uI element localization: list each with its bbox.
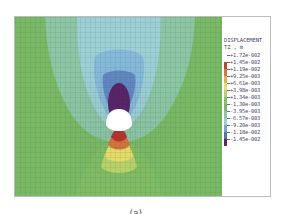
legend-value: -1.30e-003	[230, 101, 260, 107]
legend-value: -9.20e-003	[230, 122, 260, 128]
legend-swatch	[224, 139, 227, 146]
legend-value: +9.25e-003	[230, 73, 260, 79]
legend-value: +1.34e-003	[230, 94, 260, 100]
legend: DISPLACEMENT TZ , m +1.72e-002 +1.45e-00…	[222, 17, 270, 196]
contour-figure: DISPLACEMENT TZ , m +1.72e-002 +1.45e-00…	[14, 16, 271, 197]
legend-swatch	[224, 111, 227, 118]
legend-swatch	[224, 97, 227, 104]
legend-value: +1.45e-002	[230, 59, 260, 65]
legend-value: -1.18e-002	[230, 129, 260, 135]
legend-value: +6.61e-003	[230, 80, 260, 86]
legend-value: -1.45e-002	[230, 136, 260, 142]
legend-title: DISPLACEMENT	[224, 37, 262, 43]
legend-swatch	[224, 62, 227, 69]
displacement-contour-plot	[15, 17, 222, 196]
legend-swatch	[224, 69, 227, 76]
legend-swatch	[224, 132, 227, 139]
legend-value: +3.98e-003	[230, 87, 260, 93]
legend-swatch	[224, 55, 227, 62]
legend-swatch	[224, 76, 227, 83]
legend-swatch	[224, 104, 227, 111]
legend-swatch	[224, 118, 227, 125]
legend-entry: -1.45e-002	[224, 139, 270, 146]
legend-swatch	[224, 125, 227, 132]
legend-value: +1.72e-002	[230, 52, 260, 58]
figure-caption: (a) ...	[0, 208, 283, 214]
legend-value: -6.57e-003	[230, 115, 260, 121]
legend-swatch	[224, 90, 227, 97]
contour-svg	[15, 17, 222, 196]
legend-subtitle: TZ , m	[224, 44, 243, 50]
legend-value: -3.95e-003	[230, 108, 260, 114]
legend-swatch	[224, 83, 227, 90]
legend-value: +1.19e-002	[230, 66, 260, 72]
